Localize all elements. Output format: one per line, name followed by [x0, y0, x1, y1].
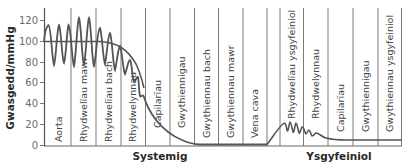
segment-label-arterioles: Rhydwelynnau	[127, 72, 138, 142]
y-tick-120: 120	[19, 15, 38, 26]
segment-label-pulmonary-arteries: Rhydwelïau ysgyfeiniol	[286, 10, 297, 119]
segment-label-small-veins: Gwythiennau bach	[201, 49, 212, 138]
segment-label-venules: Gwythiennigau	[176, 56, 187, 128]
segment-label-pulmonary-capillaries: Capilarïau	[335, 84, 346, 132]
segment-label-pulmonary-veins: Gwythiennau ysgyfeiniol	[384, 15, 395, 132]
y-ticks: 0 20 40 60 80 100 120	[19, 15, 44, 151]
y-tick-40: 40	[25, 98, 38, 109]
segment-label-small-arteries: Rhydwelïau bach	[103, 61, 114, 142]
segment-label-large-arteries: Rhydwelïau mawr	[78, 57, 89, 142]
y-tick-80: 80	[25, 57, 38, 68]
y-tick-100: 100	[19, 36, 38, 47]
pressure-chart: Gwasgedd/mmHg 0 20 40 60 80 100 120	[0, 0, 404, 168]
segment-label-large-veins: Gwythiennau mawr	[225, 45, 236, 138]
segment-label-pulmonary-arterioles: Rhydwelynnau	[310, 49, 321, 119]
y-tick-20: 20	[25, 119, 38, 130]
segment-label-pulmonary-venules: Gwythiennigau	[360, 60, 371, 132]
segment-label-vena-cava: Vena cava	[249, 89, 260, 138]
segment-labels: Aorta Rhydwelïau mawr Rhydwelïau bach Rh…	[53, 10, 395, 142]
group-label-pulmonary: Ysgyfeiniol	[305, 150, 371, 162]
y-axis-label: Gwasgedd/mmHg	[4, 26, 16, 129]
segment-dividers	[71, 8, 402, 146]
y-tick-60: 60	[25, 77, 38, 88]
group-label-systemic: Systemig	[133, 150, 188, 162]
y-tick-0: 0	[32, 140, 38, 151]
segment-label-aorta: Aorta	[53, 116, 64, 142]
